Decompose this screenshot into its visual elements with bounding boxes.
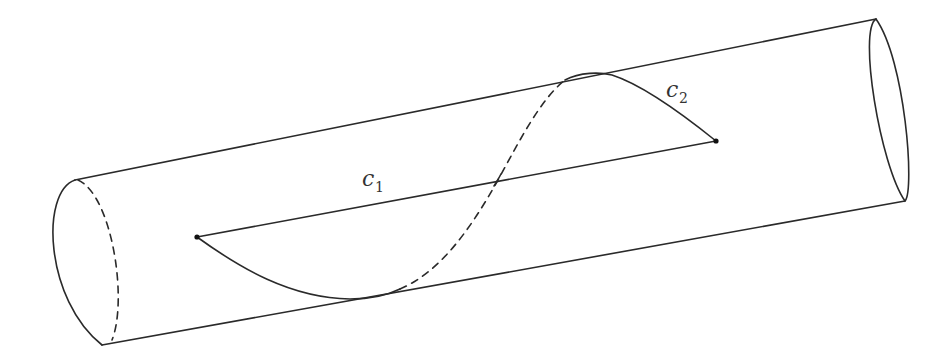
curve-c1 xyxy=(197,141,716,237)
curve-c2-front-lower xyxy=(197,237,400,299)
endpoint-right xyxy=(713,138,718,143)
left-end-hidden-arc xyxy=(78,180,118,340)
curve-c2-front-middle xyxy=(494,174,501,186)
label-c1-subscript: 1 xyxy=(375,179,384,195)
left-end-visible-arc xyxy=(53,180,102,345)
cylinder-top-edge xyxy=(75,19,876,180)
curve-c2-front-upper xyxy=(565,73,716,141)
endpoint-left xyxy=(194,234,199,239)
cylinder-diagram: c 1 c 2 xyxy=(0,0,952,363)
cylinder-bottom-edge xyxy=(102,201,905,345)
label-c1-base: c xyxy=(362,166,374,191)
label-c2-base: c xyxy=(666,77,678,102)
label-c2-subscript: 2 xyxy=(679,90,688,106)
right-end-ellipse xyxy=(869,19,908,201)
